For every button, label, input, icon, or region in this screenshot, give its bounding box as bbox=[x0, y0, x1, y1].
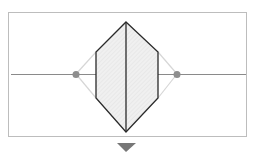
diagram-canvas bbox=[0, 0, 253, 154]
pivot-dot[interactable] bbox=[174, 71, 181, 78]
pivot-dot[interactable] bbox=[73, 71, 80, 78]
down-triangle-icon[interactable] bbox=[117, 143, 136, 152]
